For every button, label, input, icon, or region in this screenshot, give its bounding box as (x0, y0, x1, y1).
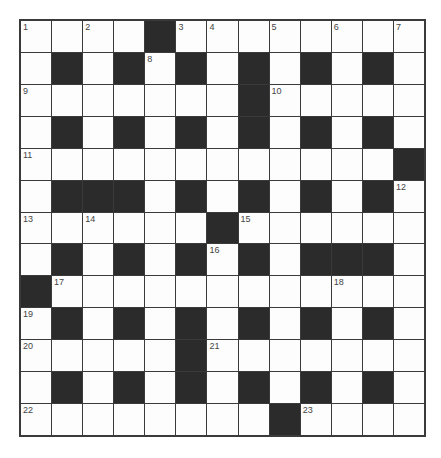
answer-cell[interactable] (363, 404, 393, 435)
answer-cell[interactable] (332, 213, 362, 244)
answer-cell[interactable] (394, 244, 424, 275)
answer-cell[interactable]: 10 (270, 85, 300, 116)
answer-cell[interactable]: 2 (83, 21, 113, 52)
answer-cell[interactable] (176, 213, 206, 244)
answer-cell[interactable] (114, 85, 144, 116)
answer-cell[interactable]: 8 (145, 53, 175, 84)
answer-cell[interactable] (363, 276, 393, 307)
answer-cell[interactable] (363, 85, 393, 116)
answer-cell[interactable] (207, 117, 237, 148)
answer-cell[interactable]: 22 (21, 404, 51, 435)
answer-cell[interactable] (176, 276, 206, 307)
answer-cell[interactable] (239, 276, 269, 307)
answer-cell[interactable] (145, 340, 175, 371)
answer-cell[interactable]: 12 (394, 181, 424, 212)
answer-cell[interactable] (52, 85, 82, 116)
answer-cell[interactable]: 14 (83, 213, 113, 244)
answer-cell[interactable] (21, 53, 51, 84)
answer-cell[interactable] (145, 181, 175, 212)
answer-cell[interactable] (83, 117, 113, 148)
answer-cell[interactable]: 9 (21, 85, 51, 116)
answer-cell[interactable] (270, 276, 300, 307)
answer-cell[interactable] (270, 149, 300, 180)
answer-cell[interactable] (394, 276, 424, 307)
answer-cell[interactable] (176, 149, 206, 180)
answer-cell[interactable] (394, 117, 424, 148)
answer-cell[interactable] (145, 276, 175, 307)
answer-cell[interactable]: 21 (207, 340, 237, 371)
answer-cell[interactable]: 19 (21, 308, 51, 339)
answer-cell[interactable] (332, 53, 362, 84)
answer-cell[interactable] (363, 213, 393, 244)
answer-cell[interactable] (114, 404, 144, 435)
answer-cell[interactable] (394, 404, 424, 435)
answer-cell[interactable] (145, 213, 175, 244)
answer-cell[interactable] (83, 53, 113, 84)
answer-cell[interactable] (332, 308, 362, 339)
answer-cell[interactable] (21, 372, 51, 403)
answer-cell[interactable] (332, 181, 362, 212)
answer-cell[interactable] (52, 404, 82, 435)
answer-cell[interactable] (332, 372, 362, 403)
answer-cell[interactable] (176, 404, 206, 435)
answer-cell[interactable] (332, 117, 362, 148)
answer-cell[interactable] (332, 149, 362, 180)
answer-cell[interactable] (239, 404, 269, 435)
answer-cell[interactable]: 4 (207, 21, 237, 52)
answer-cell[interactable] (21, 181, 51, 212)
answer-cell[interactable]: 3 (176, 21, 206, 52)
answer-cell[interactable]: 20 (21, 340, 51, 371)
answer-cell[interactable] (270, 244, 300, 275)
answer-cell[interactable] (145, 85, 175, 116)
answer-cell[interactable] (363, 340, 393, 371)
answer-cell[interactable] (83, 149, 113, 180)
answer-cell[interactable] (301, 21, 331, 52)
answer-cell[interactable] (394, 340, 424, 371)
answer-cell[interactable] (52, 213, 82, 244)
answer-cell[interactable] (270, 308, 300, 339)
answer-cell[interactable] (145, 244, 175, 275)
answer-cell[interactable]: 7 (394, 21, 424, 52)
answer-cell[interactable] (207, 404, 237, 435)
answer-cell[interactable] (207, 53, 237, 84)
answer-cell[interactable] (83, 244, 113, 275)
answer-cell[interactable] (239, 149, 269, 180)
answer-cell[interactable] (114, 21, 144, 52)
answer-cell[interactable] (301, 85, 331, 116)
answer-cell[interactable] (270, 213, 300, 244)
answer-cell[interactable] (207, 85, 237, 116)
answer-cell[interactable] (207, 149, 237, 180)
answer-cell[interactable] (114, 149, 144, 180)
answer-cell[interactable]: 18 (332, 276, 362, 307)
answer-cell[interactable] (52, 21, 82, 52)
answer-cell[interactable] (145, 308, 175, 339)
answer-cell[interactable]: 11 (21, 149, 51, 180)
answer-cell[interactable] (270, 53, 300, 84)
answer-cell[interactable] (83, 340, 113, 371)
answer-cell[interactable] (83, 404, 113, 435)
answer-cell[interactable] (239, 21, 269, 52)
answer-cell[interactable] (270, 181, 300, 212)
answer-cell[interactable] (332, 340, 362, 371)
answer-cell[interactable] (114, 213, 144, 244)
answer-cell[interactable] (239, 340, 269, 371)
answer-cell[interactable]: 16 (207, 244, 237, 275)
answer-cell[interactable] (270, 372, 300, 403)
answer-cell[interactable] (207, 308, 237, 339)
answer-cell[interactable] (363, 21, 393, 52)
answer-cell[interactable] (363, 149, 393, 180)
answer-cell[interactable] (114, 340, 144, 371)
answer-cell[interactable] (270, 340, 300, 371)
answer-cell[interactable]: 23 (301, 404, 331, 435)
answer-cell[interactable] (83, 85, 113, 116)
answer-cell[interactable]: 13 (21, 213, 51, 244)
answer-cell[interactable] (145, 404, 175, 435)
answer-cell[interactable] (21, 244, 51, 275)
answer-cell[interactable] (114, 276, 144, 307)
answer-cell[interactable]: 17 (52, 276, 82, 307)
answer-cell[interactable] (394, 53, 424, 84)
answer-cell[interactable]: 15 (239, 213, 269, 244)
answer-cell[interactable] (207, 181, 237, 212)
answer-cell[interactable]: 1 (21, 21, 51, 52)
answer-cell[interactable] (83, 372, 113, 403)
